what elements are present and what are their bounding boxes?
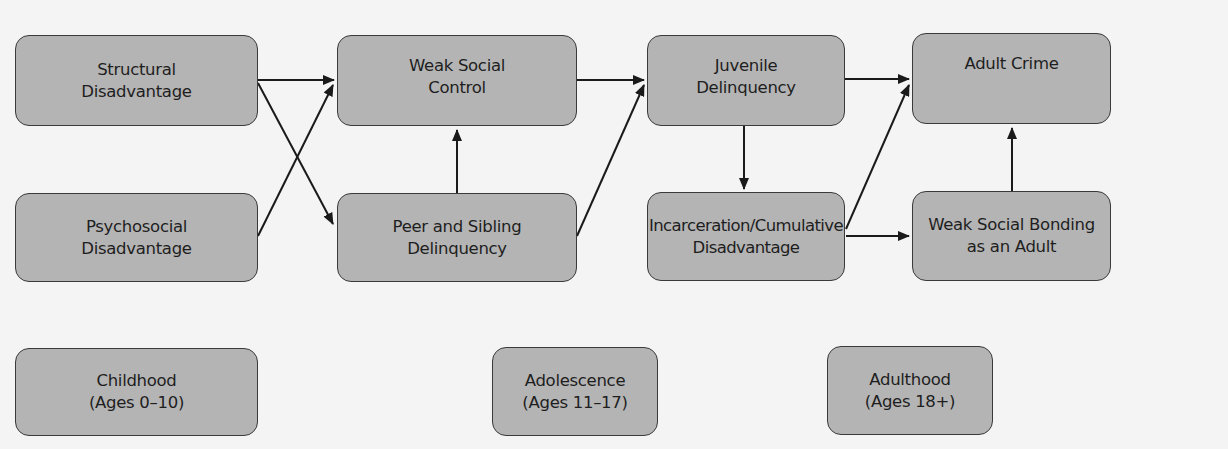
node-incarceration-cumulative-disadvantage: Incarceration/Cumulative Disadvantage	[647, 192, 845, 281]
node-label-line: Weak Social Bonding	[928, 214, 1095, 236]
node-label-line: as an Adult	[967, 236, 1056, 258]
stage-label-line: (Ages 18+)	[865, 391, 955, 413]
arrow-structural-to-peer-sibling	[258, 83, 333, 224]
node-label-line: Psychosocial	[86, 216, 187, 238]
arrow-incarceration-to-adult-crime	[846, 85, 909, 229]
arrow-psychosocial-to-weak-social-control	[258, 85, 333, 236]
stage-adolescence: Adolescence (Ages 11–17)	[492, 347, 658, 436]
arrow-peer-sibling-to-juvenile	[577, 85, 644, 236]
stage-label-line: Adulthood	[869, 369, 950, 391]
stage-label-line: (Ages 11–17)	[522, 392, 627, 414]
stage-childhood: Childhood (Ages 0–10)	[15, 348, 258, 436]
node-label-line: Peer and Sibling	[393, 216, 522, 238]
node-label-line: Adult Crime	[964, 53, 1058, 75]
node-peer-sibling-delinquency: Peer and Sibling Delinquency	[337, 193, 577, 282]
node-label-line: Juvenile	[715, 55, 778, 77]
node-label-line: Weak Social	[409, 55, 505, 77]
node-weak-social-bonding-adult: Weak Social Bonding as an Adult	[912, 191, 1111, 281]
node-label-line: Disadvantage	[81, 81, 191, 103]
stage-label-line: Adolescence	[525, 370, 626, 392]
node-label-line: Delinquency	[696, 77, 796, 99]
stage-adulthood: Adulthood (Ages 18+)	[827, 346, 993, 435]
node-psychosocial-disadvantage: Psychosocial Disadvantage	[15, 193, 258, 282]
node-adult-crime: Adult Crime	[912, 33, 1111, 124]
node-weak-social-control: Weak Social Control	[337, 35, 577, 126]
node-label-line: Structural	[97, 59, 176, 81]
node-juvenile-delinquency: Juvenile Delinquency	[647, 35, 845, 126]
node-label-line: Control	[428, 77, 486, 99]
node-label-line: Disadvantage	[693, 237, 800, 259]
node-label-line: Delinquency	[407, 238, 507, 260]
stage-label-line: (Ages 0–10)	[89, 392, 184, 414]
node-label-line: Incarceration/Cumulative	[649, 215, 843, 237]
stage-label-line: Childhood	[96, 370, 176, 392]
node-structural-disadvantage: Structural Disadvantage	[15, 35, 258, 126]
node-label-line: Disadvantage	[81, 238, 191, 260]
